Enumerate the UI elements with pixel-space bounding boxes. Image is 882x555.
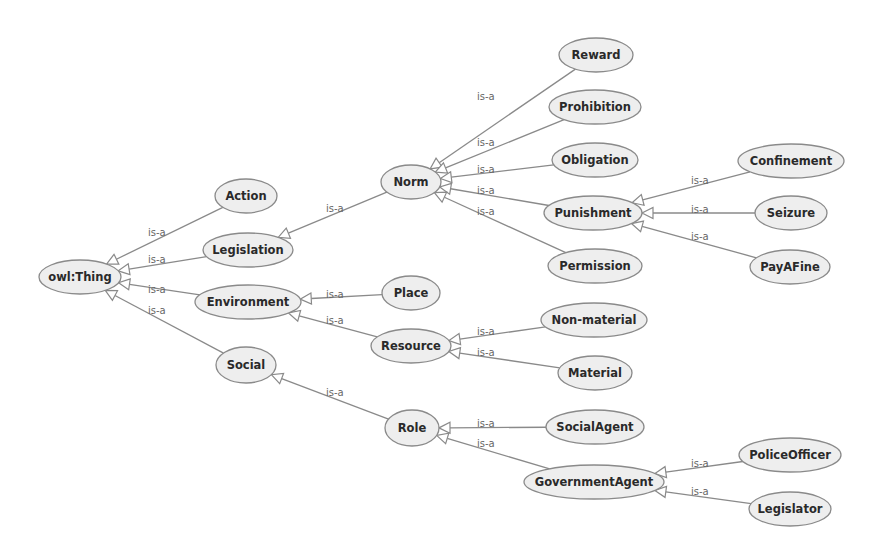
node-label: Seizure bbox=[767, 206, 816, 220]
edge-label: is-a bbox=[477, 164, 495, 175]
class-node-permission[interactable]: Permission bbox=[548, 249, 642, 283]
node-label: Legislator bbox=[758, 502, 823, 516]
ontology-diagram: is-ais-ais-ais-ais-ais-ais-ais-ais-ais-a… bbox=[0, 0, 882, 555]
edge-line bbox=[460, 353, 560, 368]
node-label: Place bbox=[394, 286, 429, 300]
edge-line bbox=[282, 379, 389, 420]
class-node-owlthing[interactable]: owl:Thing bbox=[39, 260, 121, 294]
hollow-arrowhead-icon bbox=[300, 293, 311, 304]
edge-label: is-a bbox=[148, 227, 166, 238]
node-label: Material bbox=[568, 366, 622, 380]
edge-line bbox=[311, 295, 382, 299]
node-label: Confinement bbox=[750, 154, 833, 168]
hollow-arrowhead-icon bbox=[439, 422, 450, 433]
edge-label: is-a bbox=[691, 458, 709, 469]
node-label: Action bbox=[225, 189, 266, 203]
hollow-arrowhead-icon bbox=[642, 208, 653, 219]
hollow-arrowhead-icon bbox=[271, 373, 283, 383]
hollow-arrowhead-icon bbox=[437, 433, 449, 444]
node-label: PayAFine bbox=[760, 260, 820, 274]
class-node-social[interactable]: Social bbox=[216, 347, 276, 383]
is-a-edge-reward-to-norm bbox=[430, 69, 575, 169]
edge-label: is-a bbox=[691, 204, 709, 215]
class-node-legislator[interactable]: Legislator bbox=[749, 492, 831, 526]
node-label: Prohibition bbox=[559, 100, 631, 114]
is-a-edge-permission-to-norm bbox=[434, 192, 565, 252]
hollow-arrowhead-icon bbox=[278, 228, 290, 238]
class-node-norm[interactable]: Norm bbox=[381, 165, 441, 199]
edge-label: is-a bbox=[148, 284, 166, 295]
class-node-action[interactable]: Action bbox=[215, 179, 277, 213]
is-a-edge-nonmaterial-to-resource bbox=[449, 327, 546, 345]
class-node-nonmaterial[interactable]: Non-material bbox=[541, 303, 647, 337]
node-label: SocialAgent bbox=[556, 420, 634, 434]
class-node-place[interactable]: Place bbox=[382, 276, 440, 310]
class-node-legislation[interactable]: Legislation bbox=[203, 233, 293, 267]
node-label: Social bbox=[227, 358, 266, 372]
node-label: Environment bbox=[207, 295, 290, 309]
class-node-payafine[interactable]: PayAFine bbox=[750, 250, 830, 284]
class-node-obligation[interactable]: Obligation bbox=[552, 143, 638, 177]
edge-label: is-a bbox=[326, 203, 344, 214]
edge-label: is-a bbox=[691, 486, 709, 497]
node-label: Non-material bbox=[552, 313, 637, 327]
hollow-arrowhead-icon bbox=[434, 192, 446, 202]
node-label: owl:Thing bbox=[48, 270, 111, 284]
edge-label: is-a bbox=[691, 175, 709, 186]
edge-label: is-a bbox=[477, 418, 495, 429]
class-node-governmentagent[interactable]: GovernmentAgent bbox=[524, 465, 664, 499]
edge-label: is-a bbox=[326, 315, 344, 326]
class-node-material[interactable]: Material bbox=[558, 356, 632, 390]
class-node-reward[interactable]: Reward bbox=[559, 38, 633, 72]
edge-line bbox=[129, 257, 207, 269]
class-node-confinement[interactable]: Confinement bbox=[738, 144, 844, 178]
edge-label: is-a bbox=[477, 326, 495, 337]
edge-line bbox=[451, 165, 554, 177]
edge-label: is-a bbox=[477, 347, 495, 358]
edge-line bbox=[446, 120, 565, 168]
is-a-edge-norm-to-legislation bbox=[278, 192, 387, 238]
node-label: PoliceOfficer bbox=[749, 448, 831, 462]
edge-line bbox=[447, 438, 549, 468]
node-label: Legislation bbox=[212, 243, 283, 257]
edge-label: is-a bbox=[477, 206, 495, 217]
node-label: Resource bbox=[381, 339, 441, 353]
class-node-socialagent[interactable]: SocialAgent bbox=[546, 410, 644, 444]
edge-label: is-a bbox=[691, 231, 709, 242]
is-a-edge-prohibition-to-norm bbox=[435, 120, 564, 173]
class-node-resource[interactable]: Resource bbox=[371, 329, 451, 363]
class-node-role[interactable]: Role bbox=[385, 410, 439, 446]
edge-label: is-a bbox=[477, 438, 495, 449]
is-a-edge-material-to-resource bbox=[449, 348, 560, 368]
node-label: Permission bbox=[559, 259, 631, 273]
edge-label: is-a bbox=[326, 289, 344, 300]
edge-label: is-a bbox=[326, 387, 344, 398]
class-node-policeofficer[interactable]: PoliceOfficer bbox=[739, 438, 841, 472]
node-label: Obligation bbox=[561, 153, 628, 167]
is-a-edge-obligation-to-norm bbox=[440, 165, 553, 183]
node-label: Norm bbox=[393, 175, 428, 189]
edge-label: is-a bbox=[477, 137, 495, 148]
node-label: GovernmentAgent bbox=[535, 475, 654, 489]
edge-label: is-a bbox=[477, 91, 495, 102]
edge-line bbox=[450, 427, 546, 428]
node-label: Reward bbox=[572, 48, 621, 62]
hollow-arrowhead-icon bbox=[105, 290, 117, 300]
edge-label: is-a bbox=[148, 254, 166, 265]
edge-label: is-a bbox=[148, 305, 166, 316]
edge-line bbox=[451, 189, 549, 206]
class-node-prohibition[interactable]: Prohibition bbox=[549, 90, 641, 124]
node-label: Punishment bbox=[554, 206, 632, 220]
edge-line bbox=[460, 327, 546, 339]
node-label: Role bbox=[398, 421, 427, 435]
edge-label: is-a bbox=[477, 185, 495, 196]
nodes-layer: owl:ThingActionLegislationEnvironmentSoc… bbox=[39, 38, 844, 526]
class-node-seizure[interactable]: Seizure bbox=[755, 196, 827, 230]
class-node-environment[interactable]: Environment bbox=[195, 285, 301, 319]
hollow-arrowhead-icon bbox=[107, 254, 119, 264]
class-node-punishment[interactable]: Punishment bbox=[544, 196, 642, 230]
